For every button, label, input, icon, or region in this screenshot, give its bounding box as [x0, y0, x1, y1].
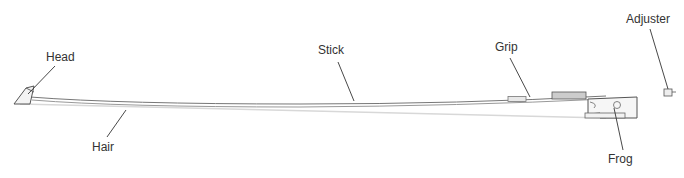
label-adjuster: Adjuster — [626, 12, 670, 26]
hair-leader — [107, 110, 126, 137]
adjuster-leader — [650, 29, 668, 89]
label-grip: Grip — [495, 40, 518, 54]
grip-leader — [510, 58, 530, 97]
stick-leader — [338, 62, 354, 101]
label-stick: Stick — [318, 43, 344, 57]
bow-grip-band — [508, 97, 526, 102]
label-head: Head — [46, 50, 75, 64]
label-frog: Frog — [608, 152, 633, 166]
bow-hair — [20, 104, 606, 118]
bow-thumb-grip — [552, 92, 586, 99]
bow-head — [14, 86, 34, 104]
label-hair: Hair — [92, 140, 114, 154]
head-leader — [28, 66, 55, 94]
bow-adjuster — [664, 89, 672, 96]
